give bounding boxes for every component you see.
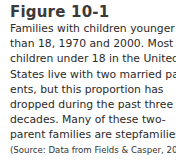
caption-line: decades. Many of these two- <box>10 112 176 127</box>
caption-line: dropped during the past three <box>10 97 176 112</box>
caption-line: parent families are stepfamilies. <box>10 127 176 142</box>
caption-line: children under 18 in the United <box>10 51 176 66</box>
figure-caption-text: Families with children younger than 18, … <box>10 21 176 143</box>
figure-caption: Figure 10-1 Families with children young… <box>10 4 176 157</box>
caption-line: ents, but this proportion has <box>10 82 176 97</box>
caption-line: States live with two married par- <box>10 67 176 82</box>
caption-line: than 18, 1970 and 2000. Most <box>10 36 176 51</box>
figure-source: (Source: Data from Fields & Casper, 2001… <box>10 144 176 157</box>
figure-title: Figure 10-1 <box>10 4 176 21</box>
caption-line: Families with children younger <box>10 21 176 36</box>
